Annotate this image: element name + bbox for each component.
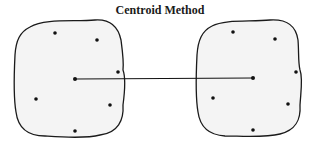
data-point — [116, 70, 120, 74]
centroid-point — [73, 77, 77, 81]
data-point — [294, 70, 298, 74]
data-point — [34, 97, 38, 101]
data-point — [231, 30, 235, 34]
centroid-point — [251, 76, 255, 80]
data-point — [53, 31, 57, 35]
data-point — [95, 38, 99, 42]
data-point — [108, 103, 112, 107]
data-point — [73, 129, 77, 133]
data-point — [273, 37, 277, 41]
data-point — [286, 102, 290, 106]
centroid-method-diagram: Centroid Method — [0, 0, 315, 146]
data-point — [211, 96, 215, 100]
diagram-graphic — [0, 0, 315, 146]
data-point — [251, 128, 255, 132]
